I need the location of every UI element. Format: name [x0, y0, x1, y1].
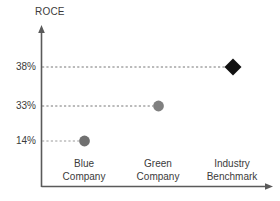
category-label-green-company-line2: Company: [120, 171, 196, 184]
y-tick-label-38: 38%: [2, 61, 36, 72]
data-point-green-company: [42, 101, 164, 112]
category-label-green-company-line1: Green: [144, 158, 172, 169]
data-point-blue-company: [42, 136, 90, 147]
x-axis: [42, 183, 274, 190]
circle-marker-green-company: [153, 101, 164, 112]
roce-chart: ROCE 38% 33% 14% Blue: [0, 0, 280, 201]
category-label-industry-benchmark: Industry Benchmark: [194, 158, 270, 183]
category-label-industry-benchmark-line1: Industry: [214, 158, 250, 169]
y-tick-label-14: 14%: [2, 135, 36, 146]
category-label-blue-company-line2: Company: [46, 171, 122, 184]
y-tick-label-33: 33%: [2, 100, 36, 111]
category-label-green-company: Green Company: [120, 158, 196, 183]
category-label-industry-benchmark-line2: Benchmark: [194, 171, 270, 184]
category-label-blue-company-line1: Blue: [74, 158, 94, 169]
data-point-industry-benchmark: [42, 59, 242, 76]
circle-marker-blue-company: [79, 136, 90, 147]
category-label-blue-company: Blue Company: [46, 158, 122, 183]
diamond-marker-industry-benchmark: [225, 59, 242, 76]
